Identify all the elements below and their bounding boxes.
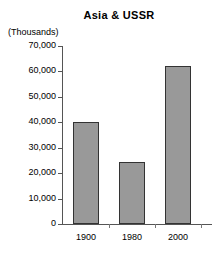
y-axis-tick-label: 20,000 <box>28 167 56 177</box>
bar-chart: Asia & USSR (Thousands) 010,00020,00030,… <box>0 0 222 257</box>
y-axis-tick <box>58 173 63 174</box>
plot-area: 010,00020,00030,00040,00050,00060,00070,… <box>62 46 212 224</box>
x-axis-tick-label: 1980 <box>112 232 152 242</box>
x-axis-tick <box>109 224 110 228</box>
y-axis-tick-label: 70,000 <box>28 40 56 50</box>
x-axis-tick-label: 2000 <box>158 232 198 242</box>
y-axis-tick <box>58 46 63 47</box>
chart-title: Asia & USSR <box>0 9 222 21</box>
x-axis-tick-label: 1900 <box>66 232 106 242</box>
y-axis-tick-label: 60,000 <box>28 65 56 75</box>
y-axis-tick <box>58 122 63 123</box>
x-axis-tick <box>155 224 156 228</box>
y-axis-unit-label: (Thousands) <box>8 27 59 37</box>
bar <box>165 66 191 224</box>
x-axis-line <box>62 224 212 225</box>
y-axis-tick <box>58 97 63 98</box>
y-axis-tick-label: 30,000 <box>28 142 56 152</box>
y-axis-tick-label: 40,000 <box>28 116 56 126</box>
y-axis-tick-label: 10,000 <box>28 193 56 203</box>
bar <box>73 122 99 224</box>
y-axis-tick <box>58 71 63 72</box>
y-axis-tick-label: 50,000 <box>28 91 56 101</box>
y-axis-tick-label: 0 <box>51 218 56 228</box>
y-axis-tick <box>58 199 63 200</box>
y-axis-tick <box>58 224 63 225</box>
x-axis-tick <box>201 224 202 228</box>
y-axis-tick <box>58 148 63 149</box>
bar <box>119 162 145 224</box>
